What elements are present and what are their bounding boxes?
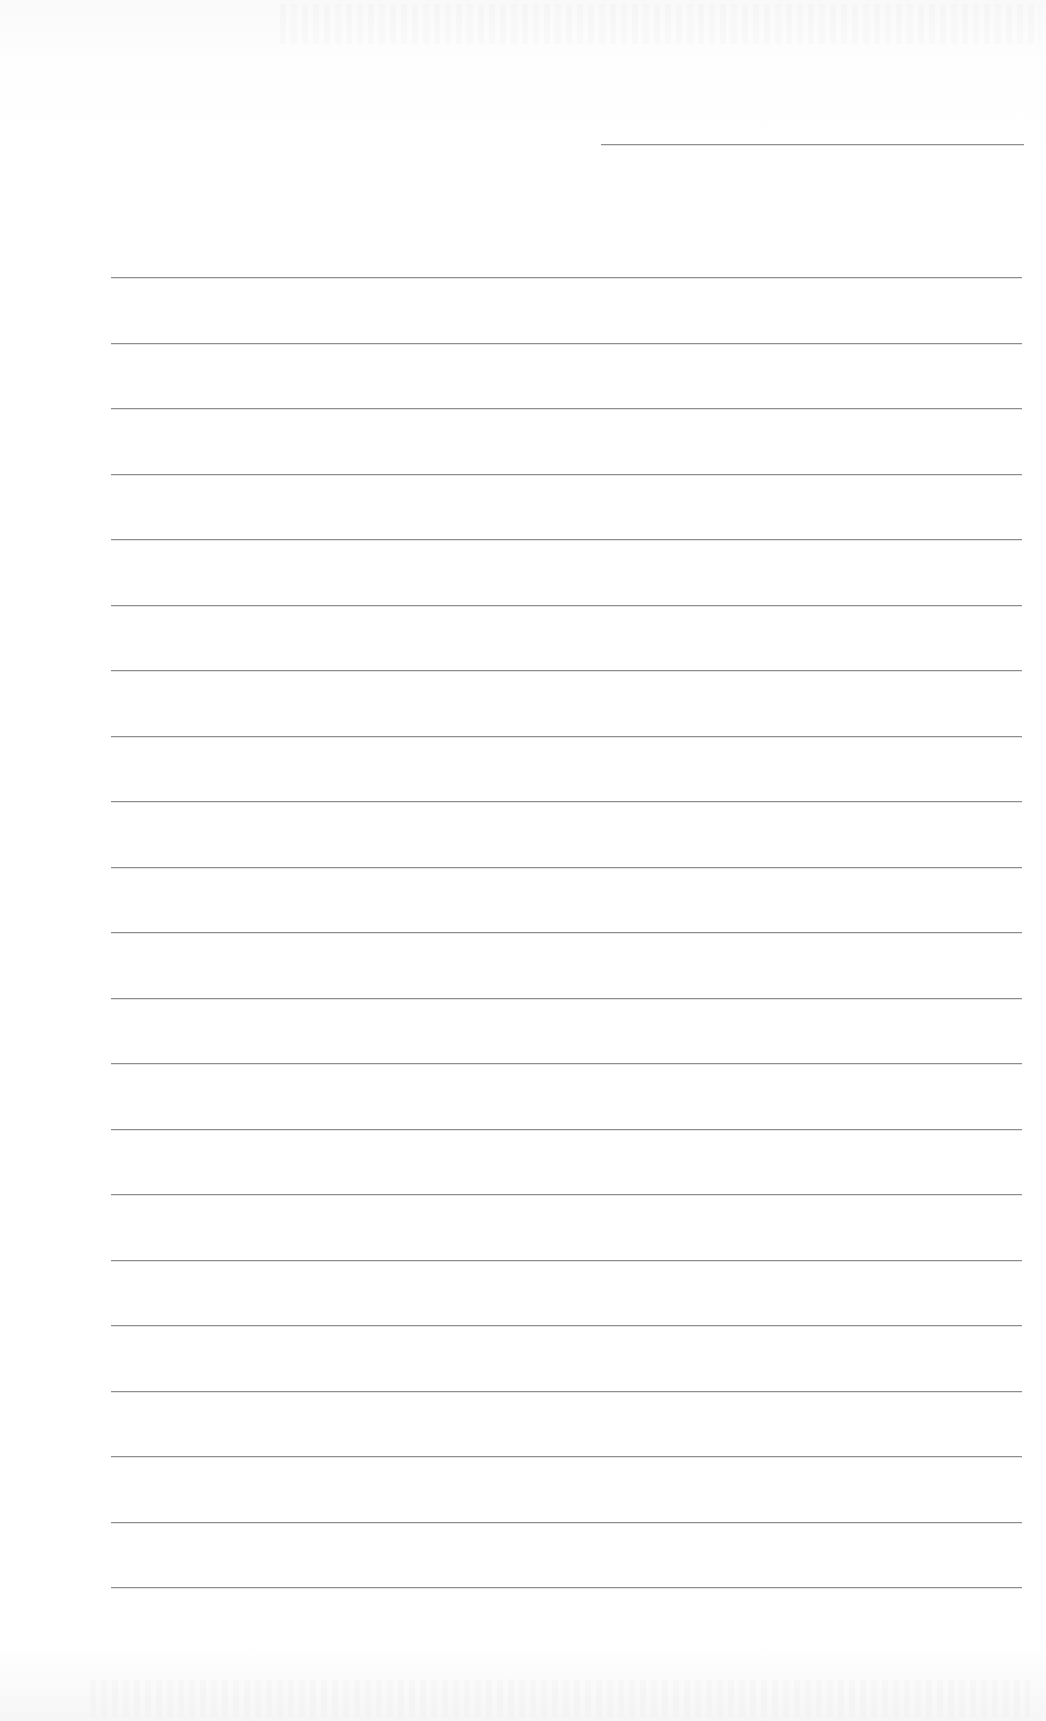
ruled-line [111, 277, 1022, 278]
ruled-line [111, 539, 1022, 540]
ruled-line [111, 998, 1022, 999]
ruled-line [111, 736, 1022, 737]
ruled-line [111, 408, 1022, 409]
ruled-line [111, 932, 1022, 933]
ruled-line [111, 670, 1022, 671]
ruled-line [111, 1063, 1022, 1064]
ruled-line [111, 343, 1022, 344]
notebook-page [0, 0, 1046, 1721]
ruled-line [111, 1456, 1022, 1457]
ruled-line [111, 1325, 1022, 1326]
ruled-line [111, 1194, 1022, 1195]
ruled-line [111, 1260, 1022, 1261]
ruled-line [111, 1129, 1022, 1130]
ruled-line [111, 605, 1022, 606]
ruled-line [111, 867, 1022, 868]
ruled-line [111, 1391, 1022, 1392]
ruled-line [111, 474, 1022, 475]
ruled-lines [0, 0, 1046, 1721]
ruled-line [111, 1587, 1022, 1588]
show-through-marks-bottom [90, 1680, 1030, 1718]
ruled-line [111, 801, 1022, 802]
ruled-line [111, 1522, 1022, 1523]
